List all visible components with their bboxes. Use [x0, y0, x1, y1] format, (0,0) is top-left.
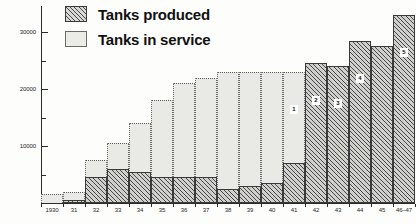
bar-produced-33 — [107, 169, 129, 203]
bar-group-38 — [217, 21, 239, 203]
bar-group-45 — [371, 21, 393, 203]
bar-produced-39 — [239, 186, 261, 203]
bar-group-31 — [63, 21, 85, 203]
bar-service-1930 — [41, 194, 63, 203]
footnote-marker-42: 2 — [312, 96, 320, 105]
footnote-marker-43: 3 — [334, 99, 342, 108]
footnote-marker-46-47: 5 — [400, 48, 408, 57]
bar-group-33 — [107, 21, 129, 203]
bar-produced-40 — [261, 183, 283, 203]
bar-group-32 — [85, 21, 107, 203]
bar-produced-31 — [63, 200, 85, 203]
bar-produced-38 — [217, 189, 239, 203]
bar-service-39 — [239, 72, 261, 203]
bar-series-group: 12345 — [0, 0, 416, 224]
bar-group-44: 4 — [349, 21, 371, 203]
bar-produced-34 — [129, 172, 151, 203]
bar-produced-37 — [195, 177, 217, 203]
bar-group-43: 3 — [327, 21, 349, 203]
bar-produced-41 — [283, 163, 305, 203]
bar-group-34 — [129, 21, 151, 203]
bar-produced-35 — [151, 177, 173, 203]
chart-root: Tanks produced Tanks in service 30000200… — [0, 0, 416, 224]
bar-group-41: 1 — [283, 21, 305, 203]
bar-group-1930 — [41, 21, 63, 203]
bar-group-39 — [239, 21, 261, 203]
bar-group-37 — [195, 21, 217, 203]
bar-group-42: 2 — [305, 21, 327, 203]
bar-produced-43 — [327, 66, 349, 203]
bar-group-46-47: 5 — [393, 21, 415, 203]
bar-service-38 — [217, 72, 239, 203]
bar-group-36 — [173, 21, 195, 203]
bar-produced-45 — [371, 46, 393, 203]
bar-produced-32 — [85, 177, 107, 203]
footnote-marker-44: 4 — [356, 74, 364, 83]
bar-group-35 — [151, 21, 173, 203]
bar-group-40 — [261, 21, 283, 203]
bar-produced-42 — [305, 63, 327, 203]
bar-produced-46-47 — [393, 15, 415, 203]
bar-produced-44 — [349, 41, 371, 203]
bar-produced-36 — [173, 177, 195, 203]
footnote-marker-41: 1 — [290, 105, 298, 114]
